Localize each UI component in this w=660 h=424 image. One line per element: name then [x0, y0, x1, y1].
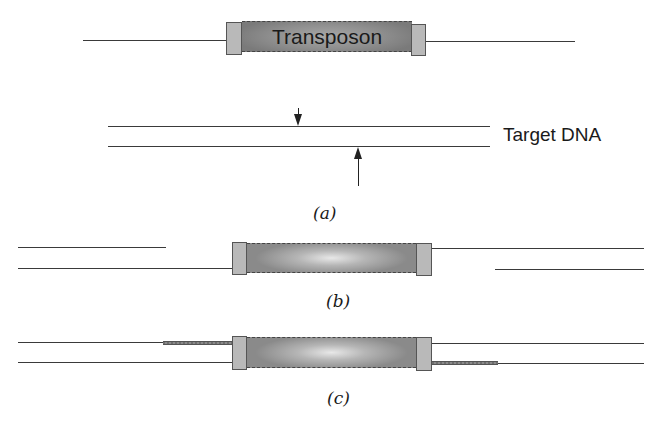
left-bottom-strand	[18, 268, 233, 269]
caption-b: (b)	[326, 291, 350, 311]
right-top-strand	[432, 248, 644, 249]
right-bottom-strand	[498, 363, 644, 364]
right-bottom-strand	[495, 269, 644, 270]
target-dna-top-strand	[108, 126, 490, 127]
target-dna-bottom-strand	[108, 146, 490, 147]
left-top-strand	[18, 247, 166, 248]
left-top-strand	[18, 342, 164, 343]
caption-a: (a)	[313, 203, 336, 223]
transposon-left-end	[232, 242, 247, 275]
transposon-body: Transposon	[242, 21, 412, 52]
transposon-body	[247, 337, 416, 368]
transposon-right-end	[416, 243, 432, 276]
target-dna-label: Target DNA	[503, 124, 601, 146]
right-gap-fill	[432, 361, 498, 365]
transposon-body	[247, 243, 416, 273]
transposon-label: Transposon	[242, 22, 412, 51]
transposon-right-end	[416, 337, 432, 371]
transposon-right-end	[411, 24, 426, 56]
donor-dna-left	[83, 40, 227, 41]
left-bottom-strand	[18, 362, 233, 363]
donor-dna-right	[426, 41, 575, 42]
left-gap-fill	[163, 341, 232, 345]
caption-c: (c)	[327, 388, 350, 408]
cut-arrow-down-icon	[294, 114, 302, 126]
transposon-left-end	[226, 22, 242, 55]
transposon-left-end	[232, 336, 247, 370]
cut-arrow-bottom-shaft	[358, 158, 359, 186]
right-top-strand	[432, 343, 644, 344]
